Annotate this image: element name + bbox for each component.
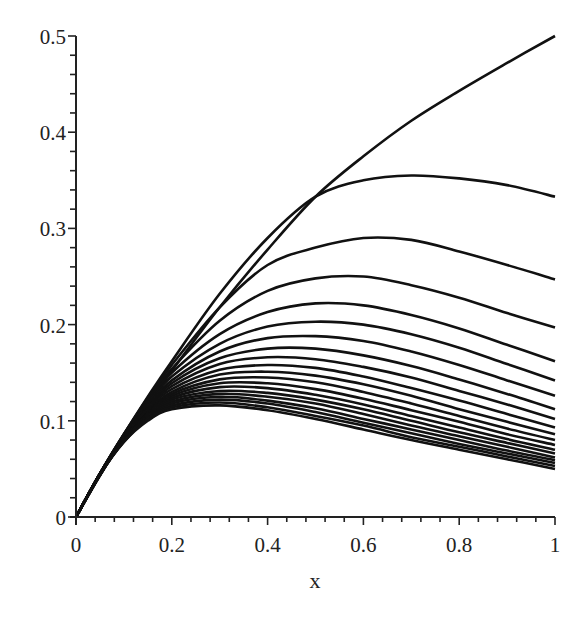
curve-line: [76, 175, 555, 517]
y-tick-label: 0.3: [40, 217, 66, 241]
y-tick-label: 0.5: [40, 25, 66, 49]
x-axis-title: x: [310, 568, 321, 593]
x-tick-label: 1: [550, 533, 561, 557]
y-tick-label: 0.4: [40, 121, 67, 145]
line-chart: 00.20.40.60.81 00.10.20.30.40.5 x: [0, 0, 588, 626]
y-tick-label: 0.1: [40, 410, 66, 434]
x-tick-label: 0.6: [350, 533, 376, 557]
y-ticks: 00.10.20.30.40.5: [40, 25, 76, 530]
curve-line: [76, 336, 555, 517]
axes-group: 00.20.40.60.81 00.10.20.30.40.5: [40, 25, 561, 557]
x-tick-label: 0: [71, 533, 82, 557]
x-tick-label: 0.2: [159, 533, 185, 557]
x-tick-label: 0.8: [446, 533, 472, 557]
curves-group: [76, 36, 555, 517]
x-tick-label: 0.4: [254, 533, 281, 557]
y-tick-label: 0.2: [40, 314, 66, 338]
y-tick-label: 0: [56, 506, 67, 530]
x-ticks: 00.20.40.60.81: [71, 517, 561, 557]
